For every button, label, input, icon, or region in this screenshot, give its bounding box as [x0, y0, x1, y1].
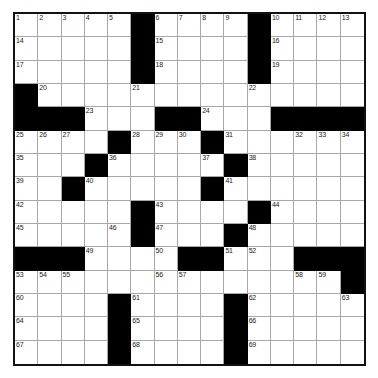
grid-cell[interactable]: 69 [248, 341, 271, 364]
grid-cell[interactable]: 54 [38, 271, 61, 294]
grid-cell[interactable] [224, 84, 247, 107]
grid-cell[interactable]: 51 [224, 247, 247, 270]
grid-cell[interactable] [317, 154, 340, 177]
grid-cell[interactable]: 32 [294, 131, 317, 154]
grid-cell[interactable]: 36 [108, 154, 131, 177]
grid-cell[interactable] [85, 271, 108, 294]
grid-cell[interactable]: 12 [317, 14, 340, 37]
grid-cell[interactable]: 40 [85, 177, 108, 200]
grid-cell[interactable]: 8 [201, 14, 224, 37]
grid-cell[interactable]: 21 [131, 84, 154, 107]
grid-cell[interactable] [108, 271, 131, 294]
grid-cell[interactable] [201, 84, 224, 107]
grid-cell[interactable] [271, 317, 294, 340]
grid-cell[interactable] [271, 154, 294, 177]
grid-cell[interactable] [224, 61, 247, 84]
grid-cell[interactable] [201, 341, 224, 364]
grid-cell[interactable] [155, 317, 178, 340]
grid-cell[interactable] [294, 61, 317, 84]
grid-cell[interactable]: 25 [15, 131, 38, 154]
grid-cell[interactable] [341, 61, 364, 84]
grid-cell[interactable] [294, 84, 317, 107]
grid-cell[interactable] [85, 61, 108, 84]
grid-cell[interactable]: 10 [271, 14, 294, 37]
grid-cell[interactable] [201, 271, 224, 294]
grid-cell[interactable] [62, 224, 85, 247]
grid-cell[interactable]: 53 [15, 271, 38, 294]
grid-cell[interactable]: 66 [248, 317, 271, 340]
grid-cell[interactable]: 29 [155, 131, 178, 154]
grid-cell[interactable] [341, 341, 364, 364]
grid-cell[interactable]: 55 [62, 271, 85, 294]
grid-cell[interactable] [317, 317, 340, 340]
grid-cell[interactable] [85, 294, 108, 317]
grid-cell[interactable] [108, 61, 131, 84]
grid-cell[interactable]: 56 [155, 271, 178, 294]
grid-cell[interactable] [108, 84, 131, 107]
grid-cell[interactable] [85, 224, 108, 247]
grid-cell[interactable] [178, 201, 201, 224]
grid-cell[interactable] [341, 37, 364, 60]
grid-cell[interactable] [201, 294, 224, 317]
grid-cell[interactable] [224, 271, 247, 294]
grid-cell[interactable]: 43 [155, 201, 178, 224]
grid-cell[interactable]: 14 [15, 37, 38, 60]
grid-cell[interactable] [271, 84, 294, 107]
grid-cell[interactable] [131, 154, 154, 177]
grid-cell[interactable]: 35 [15, 154, 38, 177]
grid-cell[interactable] [155, 84, 178, 107]
grid-cell[interactable] [108, 37, 131, 60]
grid-cell[interactable] [131, 177, 154, 200]
grid-cell[interactable] [271, 341, 294, 364]
grid-cell[interactable]: 41 [224, 177, 247, 200]
grid-cell[interactable] [178, 224, 201, 247]
grid-cell[interactable]: 23 [85, 107, 108, 130]
grid-cell[interactable] [317, 201, 340, 224]
grid-cell[interactable] [155, 341, 178, 364]
grid-cell[interactable] [62, 154, 85, 177]
grid-cell[interactable]: 39 [15, 177, 38, 200]
grid-cell[interactable] [271, 247, 294, 270]
grid-cell[interactable] [317, 294, 340, 317]
grid-cell[interactable] [201, 224, 224, 247]
grid-cell[interactable] [317, 224, 340, 247]
grid-cell[interactable] [317, 37, 340, 60]
grid-cell[interactable]: 28 [131, 131, 154, 154]
grid-cell[interactable]: 15 [155, 37, 178, 60]
grid-cell[interactable] [271, 294, 294, 317]
grid-cell[interactable] [341, 317, 364, 340]
grid-cell[interactable]: 20 [38, 84, 61, 107]
grid-cell[interactable] [294, 317, 317, 340]
grid-cell[interactable] [178, 84, 201, 107]
grid-cell[interactable] [62, 84, 85, 107]
grid-cell[interactable] [178, 154, 201, 177]
grid-cell[interactable] [38, 341, 61, 364]
grid-cell[interactable] [62, 294, 85, 317]
grid-cell[interactable] [85, 317, 108, 340]
grid-cell[interactable] [131, 247, 154, 270]
grid-cell[interactable] [248, 131, 271, 154]
grid-cell[interactable]: 38 [248, 154, 271, 177]
grid-cell[interactable]: 61 [131, 294, 154, 317]
grid-cell[interactable] [294, 294, 317, 317]
grid-cell[interactable] [131, 271, 154, 294]
grid-cell[interactable]: 59 [317, 271, 340, 294]
grid-cell[interactable] [317, 177, 340, 200]
grid-cell[interactable] [201, 201, 224, 224]
grid-cell[interactable] [294, 37, 317, 60]
grid-cell[interactable]: 3 [62, 14, 85, 37]
grid-cell[interactable]: 60 [15, 294, 38, 317]
grid-cell[interactable] [62, 61, 85, 84]
grid-cell[interactable] [85, 37, 108, 60]
grid-cell[interactable]: 33 [317, 131, 340, 154]
grid-cell[interactable] [38, 154, 61, 177]
grid-cell[interactable] [294, 201, 317, 224]
grid-cell[interactable] [155, 154, 178, 177]
grid-cell[interactable]: 37 [201, 154, 224, 177]
grid-cell[interactable]: 19 [271, 61, 294, 84]
grid-cell[interactable]: 18 [155, 61, 178, 84]
grid-cell[interactable]: 24 [201, 107, 224, 130]
grid-cell[interactable]: 44 [271, 201, 294, 224]
grid-cell[interactable]: 30 [178, 131, 201, 154]
grid-cell[interactable]: 13 [341, 14, 364, 37]
